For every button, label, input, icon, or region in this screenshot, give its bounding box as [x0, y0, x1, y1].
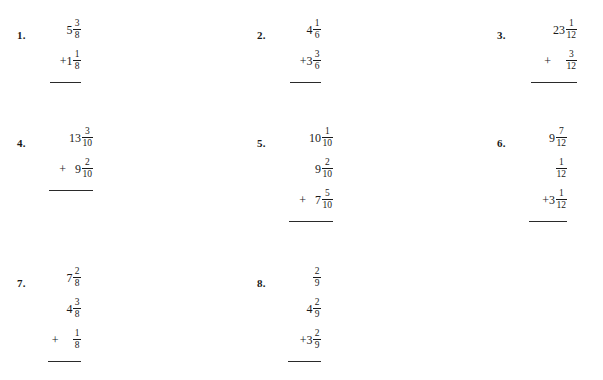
addend-term: 416 — [307, 14, 322, 45]
fraction: 16 — [313, 19, 321, 40]
plus-operator: + — [60, 55, 67, 67]
addition-stack: 416+336 — [279, 14, 321, 83]
fraction: 110 — [322, 127, 334, 148]
fraction-denominator: 8 — [74, 30, 81, 40]
problem-2: 2.416+336 — [257, 14, 321, 83]
problem-number-label: 7. — [17, 262, 39, 289]
fraction-denominator: 9 — [314, 309, 321, 319]
answer-rule — [531, 82, 577, 83]
problem-number-label: 8. — [257, 262, 279, 289]
fraction-numerator: 1 — [74, 50, 81, 60]
fraction: 312 — [566, 50, 578, 71]
addition-stack: 23112+312 — [519, 14, 577, 83]
fraction-denominator: 10 — [322, 138, 334, 148]
fraction-denominator: 8 — [74, 61, 81, 71]
answer-rule — [48, 361, 81, 362]
addition-stack: 101109210+7510 — [279, 122, 333, 222]
fraction-numerator: 1 — [558, 189, 565, 199]
fraction-denominator: 6 — [314, 30, 321, 40]
fraction-denominator: 9 — [314, 278, 321, 288]
fraction: 29 — [313, 298, 321, 319]
worksheet-page: 1.538+1182.416+3363.23112+3124.13310+921… — [0, 0, 603, 380]
addend-term: 9210 — [315, 153, 333, 184]
fraction: 38 — [73, 298, 81, 319]
addend-term: +329 — [300, 324, 321, 355]
whole-number: 3 — [307, 55, 313, 67]
addend-term: +118 — [60, 45, 81, 76]
whole-number: 7 — [315, 194, 321, 206]
addition-stack: 728438+18 — [39, 262, 81, 362]
fraction: 210 — [322, 158, 334, 179]
fraction: 29 — [313, 329, 321, 350]
fraction: 18 — [73, 329, 81, 350]
whole-number: 10 — [309, 132, 321, 144]
fraction-denominator: 10 — [322, 200, 334, 210]
problem-7: 7.728438+18 — [17, 262, 81, 362]
problem-3: 3.23112+312 — [497, 14, 577, 83]
fraction: 29 — [313, 267, 321, 288]
answer-rule — [49, 190, 93, 191]
plus-operator: + — [544, 55, 551, 67]
fraction-numerator: 2 — [74, 267, 81, 277]
problem-4: 4.13310+9210 — [17, 122, 93, 191]
fraction-numerator: 3 — [74, 19, 81, 29]
fraction: 36 — [313, 50, 321, 71]
whole-number: 9 — [75, 163, 81, 175]
addend-term: +9210 — [59, 153, 93, 184]
plus-operator: + — [542, 194, 549, 206]
fraction: 210 — [82, 158, 94, 179]
whole-number: 9 — [549, 132, 555, 144]
fraction-numerator: 3 — [84, 127, 91, 137]
addend-term: +7510 — [299, 184, 333, 215]
fraction-numerator: 2 — [314, 329, 321, 339]
fraction: 112 — [556, 158, 568, 179]
fraction-numerator: 1 — [314, 19, 321, 29]
problem-number-label: 3. — [497, 14, 519, 41]
fraction-denominator: 8 — [74, 340, 81, 350]
problem-5: 5.101109210+7510 — [257, 122, 333, 222]
fraction-numerator: 7 — [558, 127, 565, 137]
addend-term: +3112 — [542, 184, 567, 215]
fraction-numerator: 1 — [324, 127, 331, 137]
fraction: 28 — [73, 267, 81, 288]
fraction-numerator: 1 — [568, 19, 575, 29]
fraction-denominator: 12 — [566, 30, 578, 40]
problem-6: 6.9712112+3112 — [497, 122, 567, 222]
addend-term: 429 — [307, 293, 322, 324]
fraction-denominator: 8 — [74, 309, 81, 319]
fraction: 18 — [73, 50, 81, 71]
plus-operator: + — [300, 334, 307, 346]
problem-1: 1.538+118 — [17, 14, 81, 83]
fraction-numerator: 1 — [558, 158, 565, 168]
problem-number-label: 5. — [257, 122, 279, 149]
fraction-numerator: 3 — [74, 298, 81, 308]
answer-rule — [290, 82, 321, 83]
problem-number-label: 4. — [17, 122, 39, 149]
whole-number: 7 — [67, 272, 73, 284]
whole-number: 13 — [69, 132, 81, 144]
addend-term: 10110 — [309, 122, 333, 153]
fraction: 38 — [73, 19, 81, 40]
whole-number: 4 — [67, 303, 73, 315]
whole-number: 3 — [549, 194, 555, 206]
addition-stack: 538+118 — [39, 14, 81, 83]
addend-term: 29 — [313, 262, 322, 293]
fraction-denominator: 12 — [556, 200, 568, 210]
addend-term: 438 — [67, 293, 82, 324]
plus-operator: + — [299, 194, 306, 206]
fraction-denominator: 12 — [566, 61, 578, 71]
addend-term: +18 — [52, 324, 81, 355]
plus-operator: + — [52, 334, 59, 346]
addend-term: +312 — [544, 45, 577, 76]
fraction-numerator: 1 — [74, 329, 81, 339]
fraction-denominator: 9 — [314, 340, 321, 350]
addend-term: 538 — [67, 14, 82, 45]
fraction-numerator: 3 — [568, 50, 575, 60]
fraction-denominator: 12 — [556, 169, 568, 179]
fraction-denominator: 10 — [82, 138, 94, 148]
addend-term: 112 — [555, 153, 567, 184]
fraction-denominator: 10 — [322, 169, 334, 179]
addend-term: 728 — [67, 262, 82, 293]
fraction: 712 — [556, 127, 568, 148]
addition-stack: 9712112+3112 — [519, 122, 567, 222]
